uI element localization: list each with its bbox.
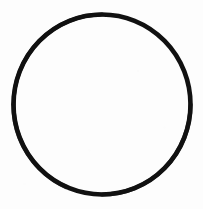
- circle-figure-svg: Circle: [0, 0, 203, 209]
- canvas-background: [0, 0, 203, 209]
- image-canvas: Circle Scanned hand-drawn black circle o…: [0, 0, 203, 209]
